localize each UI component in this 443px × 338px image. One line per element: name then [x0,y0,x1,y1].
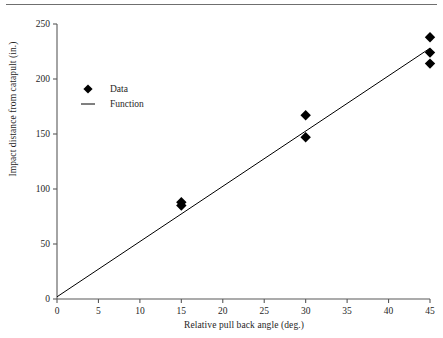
x-tick-label: 45 [425,306,435,316]
legend-marker-diamond [83,84,92,93]
y-axis-title: Impact distance from catapult (in.) [8,0,26,229]
chart-legend: DataFunction [81,84,144,109]
x-tick-label: 20 [218,306,228,316]
x-tick-label: 5 [96,306,101,316]
data-point-marker [425,58,435,68]
chart-figure: 050100150200250051015202530354045 DataFu… [0,0,443,338]
y-tick-label: 150 [36,129,51,139]
data-point-marker [425,47,435,57]
x-tick-label: 15 [177,306,187,316]
data-point-marker [300,110,310,120]
y-tick-label: 0 [45,294,50,304]
x-tick-label: 0 [55,306,60,316]
x-tick-label: 40 [384,306,394,316]
data-series-group [57,32,435,297]
y-tick-label: 100 [36,184,51,194]
x-tick-label: 10 [135,306,145,316]
x-tick-label: 35 [342,306,352,316]
legend-label: Data [110,84,129,94]
y-tick-label: 250 [36,19,51,29]
data-point-marker [425,32,435,42]
x-tick-label: 30 [301,306,311,316]
y-tick-label: 50 [41,239,51,249]
plot-area-svg: 050100150200250051015202530354045 DataFu… [0,0,443,338]
x-axis-title: Relative pull back angle (deg.) [57,320,431,330]
legend-label: Function [110,99,144,109]
x-tick-label: 25 [259,306,269,316]
y-tick-label: 200 [36,74,51,84]
